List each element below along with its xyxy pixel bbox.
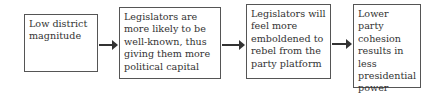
arrow-right-icon <box>99 44 116 46</box>
node-legislators-emboldened: Legislators will feel more emboldened to… <box>246 4 331 79</box>
node-legislators-well-known: Legislators are more likely to be well-k… <box>119 7 221 79</box>
arrow-right-icon <box>222 44 243 46</box>
arrow-right-icon <box>332 43 350 45</box>
node-lower-party-cohesion: Lower party cohesion results in less pre… <box>353 4 421 88</box>
node-low-district-magnitude: Low district magnitude <box>24 14 98 72</box>
